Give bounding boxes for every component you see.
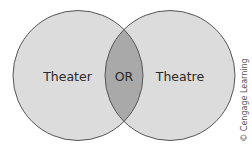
venn-diagram: Theater OR Theatre © Cengage Learning — [0, 0, 252, 154]
copyright-credit: © Cengage Learning — [240, 58, 249, 141]
right-set-label: Theatre — [155, 69, 205, 84]
intersection-label: OR — [115, 69, 134, 84]
left-set-label: Theater — [42, 69, 92, 84]
